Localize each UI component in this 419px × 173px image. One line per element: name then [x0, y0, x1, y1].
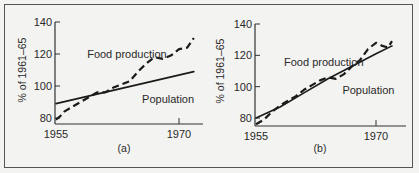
x-tick-label: 1970 — [167, 128, 191, 140]
panel-label: (b) — [314, 142, 327, 154]
series-annotation: Food production — [284, 56, 364, 68]
figure: 8010012014019551970% of 1961–65Food prod… — [0, 0, 419, 173]
panel-label: (a) — [118, 142, 131, 154]
y-tick-label: 140 — [34, 16, 52, 28]
y-tick-label: 120 — [234, 49, 252, 61]
series-annotation: Population — [342, 84, 394, 96]
y-tick-label: 140 — [234, 18, 252, 30]
y-tick-label: 80 — [40, 112, 52, 124]
y-axis-label: % of 1961–65 — [214, 38, 226, 103]
series-annotation: Food production — [87, 48, 167, 60]
chart-panel-a: 8010012014019551970% of 1961–65Food prod… — [16, 16, 203, 154]
x-tick-label: 1970 — [364, 130, 388, 142]
x-tick-label: 1955 — [244, 130, 268, 142]
series-annotation: Population — [142, 93, 194, 105]
x-tick-label: 1955 — [44, 128, 68, 140]
y-tick-label: 80 — [240, 112, 252, 124]
y-axis-label: % of 1961–65 — [16, 37, 28, 102]
y-tick-label: 100 — [234, 81, 252, 93]
chart-panel-b: 8010012014019551970% of 1961–65Food prod… — [214, 18, 406, 154]
y-tick-label: 100 — [34, 80, 52, 92]
y-tick-label: 120 — [34, 48, 52, 60]
food-production-line — [256, 41, 392, 124]
